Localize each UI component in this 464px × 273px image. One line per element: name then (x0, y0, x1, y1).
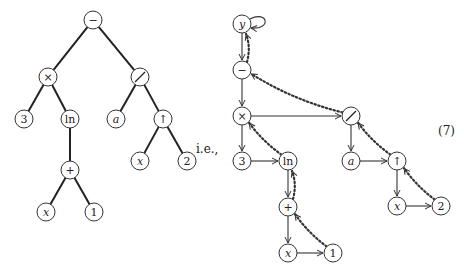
self-loop-arrow (250, 17, 265, 28)
svg-text:x: x (285, 247, 292, 260)
graph-node-one: 1 (324, 244, 342, 262)
parent-pointer-edge (358, 123, 390, 155)
parent-pointer-edge (295, 214, 327, 246)
tree-edge (28, 85, 43, 111)
parent-pointer-edge (292, 171, 295, 199)
graph-node-ln: ln (279, 152, 297, 170)
tree-node-plus: + (61, 161, 79, 179)
tree-node-ln: ln (61, 110, 79, 128)
svg-text:+: + (283, 201, 292, 214)
linked-graph: y−×3lna↑+x1x2 (233, 15, 450, 262)
tree-edge (144, 127, 158, 153)
graph-node-three: 3 (233, 152, 251, 170)
svg-text:a: a (348, 155, 355, 168)
svg-text:↑: ↑ (392, 155, 401, 168)
ie-label: i.e., (196, 142, 218, 156)
tree-node-three: 3 (15, 110, 33, 128)
svg-text:×: × (43, 71, 52, 84)
tree-edge (144, 85, 158, 111)
parent-pointer-edge (404, 168, 435, 199)
tree-node-minus: − (84, 11, 102, 29)
graph-node-plus: + (279, 198, 297, 216)
expression-tree: −×3lna↑+x1x2 (15, 11, 196, 221)
svg-text:a: a (113, 113, 120, 126)
svg-text:y: y (238, 18, 246, 31)
tree-node-times: × (39, 68, 57, 86)
tree-node-x2: x (131, 152, 149, 170)
svg-text:x: x (394, 200, 401, 213)
tree-node-x1: x (37, 203, 55, 221)
svg-text:2: 2 (438, 200, 445, 213)
svg-text:3: 3 (21, 113, 28, 126)
graph-node-x2: x (388, 197, 406, 215)
tree-node-a: a (107, 110, 125, 128)
graph-node-two: 2 (432, 197, 450, 215)
tree-edge (74, 178, 89, 204)
equation-number: (7) (438, 124, 455, 138)
tree-edge (52, 85, 66, 111)
parent-pointer-edge (246, 34, 249, 62)
tree-edge (50, 178, 65, 204)
graph-node-minus: − (233, 61, 251, 79)
svg-text:+: + (65, 164, 74, 177)
graph-node-x1: x (279, 244, 297, 262)
tree-edge (167, 127, 182, 153)
graph-node-times: × (233, 107, 251, 125)
svg-text:x: x (137, 155, 144, 168)
svg-text:2: 2 (184, 155, 191, 168)
tree-edge (99, 27, 135, 70)
graph-node-y: y (233, 15, 251, 33)
graph-node-a: a (342, 152, 360, 170)
tree-node-two: 2 (178, 152, 196, 170)
tree-node-div (131, 68, 149, 86)
svg-text:×: × (237, 110, 246, 123)
svg-text:x: x (43, 206, 50, 219)
tree-edge (54, 27, 88, 70)
svg-text:1: 1 (330, 247, 337, 260)
svg-text:↑: ↑ (158, 113, 167, 126)
parent-pointer-edge (249, 123, 281, 155)
graph-node-div (342, 107, 360, 125)
svg-text:ln: ln (65, 113, 76, 126)
tree-node-one: 1 (85, 203, 103, 221)
svg-text:−: − (237, 64, 246, 77)
parent-pointer-edge (251, 74, 342, 113)
tree-edge (120, 85, 135, 111)
graph-node-pow: ↑ (388, 152, 406, 170)
tree-node-pow: ↑ (154, 110, 172, 128)
diagram-canvas: −×3lna↑+x1x2 y−×3lna↑+x1x2 (0, 0, 464, 273)
svg-text:−: − (88, 14, 97, 27)
graph-edges (242, 17, 435, 253)
svg-text:3: 3 (239, 155, 246, 168)
svg-text:ln: ln (283, 155, 294, 168)
svg-text:1: 1 (91, 206, 98, 219)
